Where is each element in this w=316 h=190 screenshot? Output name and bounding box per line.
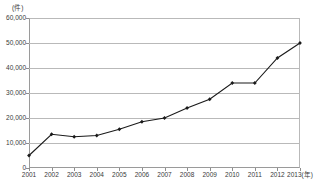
x-axis-tick-label: 2002 (44, 172, 58, 179)
x-axis-tick-label: 2006 (135, 172, 149, 179)
x-axis-tick-label: 2008 (180, 172, 194, 179)
x-axis-tick-label: 2009 (202, 172, 216, 179)
x-axis-labels: 2001200220032004200520062007200820092010… (0, 172, 316, 186)
line-chart: (件) 010,00020,00030,00040,00050,00060,00… (0, 0, 316, 190)
x-axis-tick-label: 2012 (270, 172, 284, 179)
x-axis-tick-label: 2010 (225, 172, 239, 179)
data-line (29, 43, 300, 156)
y-axis-tick-label: 40,000 (6, 65, 26, 72)
x-axis-tick-label: 2007 (157, 172, 171, 179)
series-line (29, 18, 300, 168)
y-axis-tick-label: 30,000 (6, 90, 26, 97)
data-point-marker (185, 106, 189, 110)
x-axis-tick-label: 2004 (90, 172, 104, 179)
y-axis-tick-label: 20,000 (6, 115, 26, 122)
y-axis-tick-label: 10,000 (6, 140, 26, 147)
data-point-marker (163, 116, 167, 120)
y-axis-tick-label: 50,000 (6, 40, 26, 47)
y-axis-unit-label: (件) (12, 5, 23, 12)
data-point-marker (95, 134, 99, 138)
x-axis-tick-label: 2005 (112, 172, 126, 179)
y-axis-tick-label: 60,000 (6, 15, 26, 22)
x-axis-tick-label: 2001 (22, 172, 36, 179)
data-point-marker (140, 120, 144, 124)
x-axis-tick-label: 2013(年) (287, 172, 313, 179)
y-axis-labels: 010,00020,00030,00040,00050,00060,000 (0, 18, 26, 168)
data-point-marker (72, 135, 76, 139)
data-point-marker (117, 127, 121, 131)
plot-area (29, 18, 300, 168)
x-axis-tick-label: 2003 (67, 172, 81, 179)
x-axis-tick-label: 2011 (248, 172, 262, 179)
